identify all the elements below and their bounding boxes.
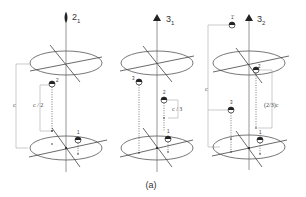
- upper-plane-axis-b: [50, 45, 80, 82]
- origin-point: [65, 147, 67, 149]
- svg-text:2: 2: [56, 78, 59, 83]
- height-label: c: [205, 86, 208, 92]
- axis-label: 32: [257, 14, 266, 26]
- step-label: c / 3: [172, 106, 182, 112]
- svg-text:1': 1': [231, 15, 235, 20]
- height-bracket: [16, 64, 30, 148]
- atom-1-prime: 1': [229, 15, 235, 28]
- figure-caption: (a): [146, 180, 157, 190]
- atom-2: 2: [49, 78, 59, 87]
- threefold-axis-symbol-icon: [153, 14, 161, 21]
- axis-label: 31: [166, 14, 175, 26]
- atom-2: 2: [253, 64, 261, 73]
- screw-axis-diagram: 21 c c / 2 2 1: [0, 0, 306, 197]
- atom-3: 3: [132, 76, 142, 85]
- projection-point: [138, 152, 140, 154]
- svg-text:1: 1: [259, 130, 262, 135]
- projection-point: [51, 130, 53, 132]
- svg-text:2: 2: [258, 64, 261, 69]
- projection-point: [51, 143, 53, 145]
- step-label: (2/3)c: [264, 102, 279, 109]
- axis-label: 21: [72, 12, 81, 24]
- projection-point: [163, 117, 165, 119]
- atom-3: 3: [228, 100, 234, 113]
- svg-text:1: 1: [167, 129, 170, 134]
- step-label: c / 2: [33, 102, 43, 108]
- origin-point: [248, 147, 250, 149]
- twofold-axis-symbol-icon: [65, 12, 68, 23]
- svg-text:3: 3: [230, 100, 233, 105]
- svg-text:2: 2: [163, 90, 166, 95]
- step-bracket: [258, 70, 272, 128]
- height-label: c: [13, 102, 16, 108]
- projection-point: [167, 151, 169, 153]
- atom-1: 1: [257, 130, 263, 143]
- origin-point: [156, 147, 158, 149]
- svg-text:1: 1: [77, 130, 80, 135]
- projection-point: [259, 153, 261, 155]
- upper-plane-axis-a: [213, 56, 289, 72]
- projection-point: [255, 127, 257, 129]
- projection-point: [230, 138, 232, 140]
- step-bracket: [40, 85, 51, 131]
- threefold-axis-symbol-icon: [245, 14, 253, 21]
- panel-3-1: 31 3 2 c / 3 1: [120, 14, 194, 172]
- lower-plane-axis-a: [29, 140, 107, 157]
- panel-2-1: 21 c c / 2 2 1: [13, 12, 107, 172]
- svg-text:3: 3: [132, 76, 135, 81]
- projection-point: [77, 153, 79, 155]
- panel-3-2: 32 1' c 2 (2/3)c 3: [205, 14, 289, 170]
- atom-2: 2: [161, 90, 167, 103]
- height-bracket: [208, 25, 229, 147]
- atom-1: 1: [165, 129, 171, 142]
